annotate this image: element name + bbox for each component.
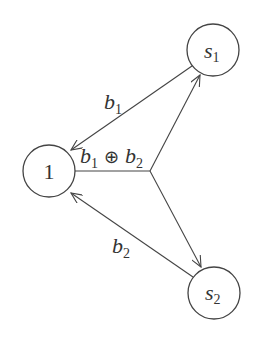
network-coding-diagram: 1 s1 s2 b1 b2 b1⊕b2 (0, 0, 262, 339)
edge-label-b2: b2 (112, 233, 130, 261)
edge-label-xor: b1⊕b2 (80, 143, 143, 171)
node-s1: s1 (187, 24, 239, 76)
edge-s2-to-1 (71, 193, 193, 277)
node-1: 1 (23, 145, 75, 197)
node-s2: s2 (188, 267, 240, 319)
edge-s1-to-1 (71, 66, 192, 150)
edge-label-b1: b1 (104, 89, 122, 117)
node-1-label: 1 (44, 159, 55, 184)
